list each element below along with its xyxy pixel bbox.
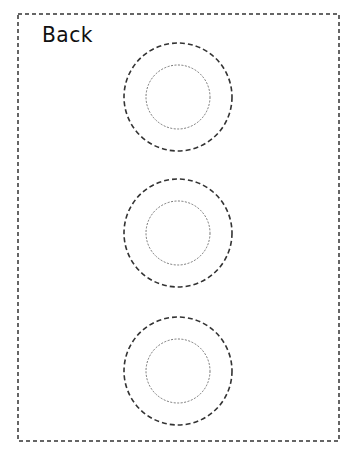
inner-circle	[146, 339, 210, 403]
circle-group-2	[124, 179, 232, 287]
inner-circle	[146, 65, 210, 129]
inner-circle	[146, 201, 210, 265]
template-sheet	[0, 0, 357, 452]
outer-circle	[124, 43, 232, 151]
outer-circle	[124, 179, 232, 287]
circle-group-3	[124, 317, 232, 425]
circle-group-1	[124, 43, 232, 151]
page-title: Back	[42, 22, 93, 47]
outer-cut-border	[18, 14, 339, 441]
outer-circle	[124, 317, 232, 425]
